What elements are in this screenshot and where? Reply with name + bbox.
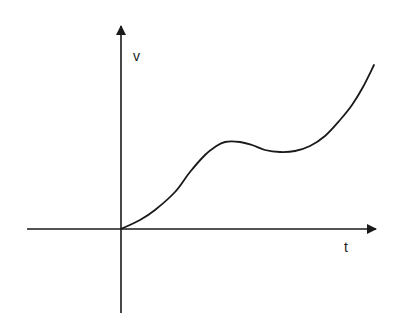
velocity-curve <box>121 65 374 229</box>
y-axis-label: v <box>133 48 140 64</box>
x-axis-label: t <box>344 239 348 255</box>
velocity-time-diagram: v t <box>0 0 402 333</box>
